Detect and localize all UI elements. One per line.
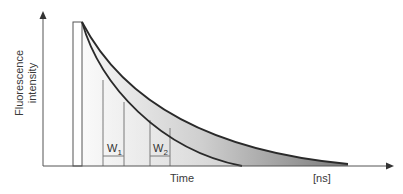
y-axis-arrow-icon <box>40 11 47 19</box>
excitation-pulse <box>73 22 82 166</box>
y-axis-label-line1: Fluorescence <box>13 43 26 123</box>
y-axis-label: Fluorescence intensity <box>13 43 39 123</box>
x-axis-unit: [ns] <box>313 172 331 184</box>
x-axis-label: Time <box>170 172 194 184</box>
x-axis-arrow-icon <box>386 163 394 170</box>
fluorescence-decay-diagram: Fluorescence intensity W1 W2 Time [ns] <box>0 0 403 194</box>
gate-label-w1: W1 <box>107 142 122 157</box>
y-axis-label-line2: intensity <box>26 43 39 123</box>
diagram-canvas <box>0 0 403 194</box>
gate-label-w2: W2 <box>153 142 168 157</box>
